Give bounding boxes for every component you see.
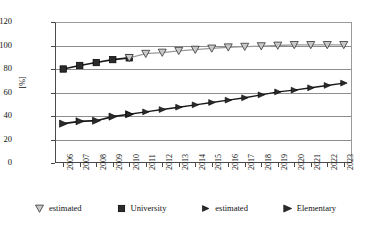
x-axis-tick xyxy=(344,163,345,167)
x-axis-tick-label: 2013 xyxy=(182,140,190,170)
x-axis-tick-label: 2016 xyxy=(232,140,240,170)
y-axis-tick-label: 40 xyxy=(0,111,12,120)
y-axis-tick-label: 80 xyxy=(0,64,12,73)
x-axis-tick xyxy=(162,163,163,167)
legend-label: University xyxy=(131,203,167,213)
gridline xyxy=(56,69,351,70)
x-axis-tick-label: 2008 xyxy=(100,140,108,170)
gridline xyxy=(56,46,351,47)
x-axis-tick-label: 2019 xyxy=(281,140,289,170)
x-axis-tick xyxy=(261,163,262,167)
y-axis-tick-label: 120 xyxy=(0,17,12,26)
legend-item-2[interactable]: estimated xyxy=(200,203,248,214)
x-axis-tick xyxy=(63,163,64,167)
y-axis-tick-label: 20 xyxy=(0,135,12,144)
y-axis-tick-label: 60 xyxy=(0,88,12,97)
legend-item-1[interactable]: University xyxy=(116,203,167,214)
y-axis-tick-label: 0 xyxy=(0,158,12,167)
x-axis-tick-label: 2007 xyxy=(83,140,91,170)
x-axis-tick xyxy=(245,163,246,167)
x-axis-tick xyxy=(195,163,196,167)
x-axis-tick xyxy=(327,163,328,167)
x-axis-tick xyxy=(146,163,147,167)
x-axis-tick xyxy=(278,163,279,167)
x-axis-tick-label: 2017 xyxy=(248,140,256,170)
x-axis-tick-label: 2014 xyxy=(199,140,207,170)
gridline xyxy=(56,116,351,117)
x-axis-tick-label: 2023 xyxy=(347,140,355,170)
x-axis-tick xyxy=(294,163,295,167)
legend-item-0[interactable]: estimated xyxy=(34,203,82,214)
legend-item-3[interactable]: Elementary xyxy=(282,203,336,214)
x-axis-tick-label: 2012 xyxy=(166,140,174,170)
filled-square-icon xyxy=(116,203,127,214)
filled-right-triangle-small-icon xyxy=(200,203,211,214)
x-axis-tick xyxy=(179,163,180,167)
legend-label: estimated xyxy=(215,203,248,213)
x-axis-tick xyxy=(96,163,97,167)
x-axis-tick-label: 2021 xyxy=(314,140,322,170)
x-axis-tick-label: 2010 xyxy=(133,140,141,170)
x-axis-tick xyxy=(212,163,213,167)
x-axis-tick-label: 2015 xyxy=(215,140,223,170)
y-axis-tick xyxy=(51,163,55,164)
x-axis-tick xyxy=(129,163,130,167)
x-axis-tick xyxy=(80,163,81,167)
x-axis-tick-label: 2006 xyxy=(67,140,75,170)
gridline xyxy=(56,93,351,94)
x-axis-tick-label: 2009 xyxy=(116,140,124,170)
legend-label: Elementary xyxy=(297,203,336,213)
filled-right-triangle-icon xyxy=(282,203,293,214)
x-axis-tick-label: 2011 xyxy=(149,140,157,170)
chart-legend: estimatedUniversityestimatedElementary xyxy=(34,200,336,216)
chart-container: [%] 020406080100120 20062007200820092010… xyxy=(0,0,369,228)
x-axis-tick xyxy=(228,163,229,167)
x-axis-tick-label: 2022 xyxy=(331,140,339,170)
y-axis-title: [%] xyxy=(18,63,27,103)
y-axis-tick-label: 100 xyxy=(0,41,12,50)
x-axis-tick xyxy=(113,163,114,167)
x-axis-tick-label: 2018 xyxy=(265,140,273,170)
x-axis-tick xyxy=(311,163,312,167)
open-down-triangle-icon xyxy=(34,203,45,214)
legend-label: estimated xyxy=(49,203,82,213)
x-axis-tick-label: 2020 xyxy=(298,140,306,170)
